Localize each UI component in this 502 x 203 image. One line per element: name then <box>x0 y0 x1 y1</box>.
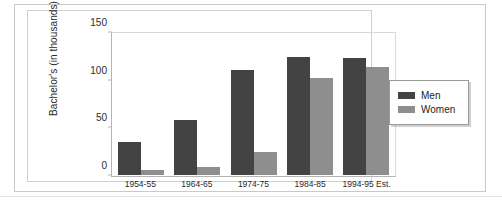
legend-item-women[interactable]: Women <box>398 102 460 116</box>
x-tick-label-1994-95-est: 1994-95 Est. <box>338 179 395 189</box>
bar-women-1964-65[interactable] <box>197 167 220 175</box>
y-tick-mark-0 <box>108 175 112 176</box>
legend-swatch-men-icon <box>398 92 415 99</box>
bar-women-1984-85[interactable] <box>310 78 333 175</box>
y-tick-mark-100 <box>108 79 112 80</box>
x-tick-label-1964-65: 1964-65 <box>169 179 226 189</box>
bar-men-1994-95-est[interactable] <box>343 58 366 176</box>
clipped-caption-strip <box>0 196 502 203</box>
y-tick-mark-50 <box>108 127 112 128</box>
caption-divider <box>0 196 502 197</box>
chart-legend: Men Women <box>389 80 469 125</box>
bar-group-1964-65 <box>169 34 225 175</box>
plot-area: 0 50 100 150 <box>111 32 396 177</box>
y-tick-mark-150 <box>108 32 112 33</box>
bar-women-1954-55[interactable] <box>141 170 164 175</box>
x-tick-label-1984-85: 1984-85 <box>282 179 339 189</box>
bar-groups <box>113 34 394 175</box>
bar-group-1994-95-est <box>338 34 394 175</box>
bar-women-1974-75[interactable] <box>254 152 277 176</box>
x-axis-tick-labels: 1954-55 1964-65 1974-75 1984-85 1994-95 … <box>112 179 395 189</box>
bar-women-1994-95-est[interactable] <box>366 67 389 175</box>
legend-swatch-women-icon <box>398 106 415 113</box>
y-tick-100: 100 <box>67 64 107 75</box>
legend-label-men: Men <box>421 90 440 101</box>
bar-group-1954-55 <box>113 34 169 175</box>
legend-item-men[interactable]: Men <box>398 88 460 102</box>
chart-plot-frame: Bachelor's (in thousands) 0 50 100 150 <box>27 10 372 182</box>
bar-chart-figure: Bachelor's (in thousands) 0 50 100 150 <box>0 0 502 203</box>
x-tick-label-1974-75: 1974-75 <box>225 179 282 189</box>
bar-group-1974-75 <box>225 34 281 175</box>
bar-group-1984-85 <box>282 34 338 175</box>
bar-men-1984-85[interactable] <box>287 57 310 175</box>
legend-label-women: Women <box>421 104 455 115</box>
y-tick-150: 150 <box>67 17 107 28</box>
y-tick-0: 0 <box>67 160 107 171</box>
y-tick-50: 50 <box>67 112 107 123</box>
bar-men-1954-55[interactable] <box>118 142 141 175</box>
y-axis-title: Bachelor's (in thousands) <box>48 0 59 139</box>
bar-men-1974-75[interactable] <box>231 70 254 175</box>
x-tick-label-1954-55: 1954-55 <box>112 179 169 189</box>
bar-men-1964-65[interactable] <box>174 120 197 175</box>
